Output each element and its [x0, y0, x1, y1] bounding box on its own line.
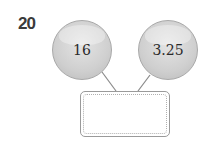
circle-value: 16: [73, 42, 91, 58]
number-circle-right: 3.25: [138, 20, 198, 80]
answer-box-inner: [83, 94, 167, 134]
number-circle-left: 16: [52, 20, 112, 80]
answer-box[interactable]: [80, 91, 170, 137]
circle-value: 3.25: [152, 42, 183, 58]
